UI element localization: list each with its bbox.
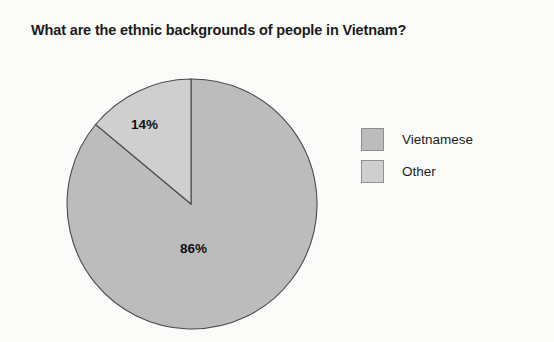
slice-label-other: 14% bbox=[131, 117, 158, 132]
legend-label-vietnamese: Vietnamese bbox=[402, 132, 473, 147]
legend-swatch-vietnamese bbox=[361, 128, 384, 151]
pie-chart-figure: What are the ethnic backgrounds of peopl… bbox=[0, 0, 554, 342]
legend-label-other: Other bbox=[402, 164, 436, 179]
slice-label-vietnamese: 86% bbox=[180, 241, 207, 256]
legend-item-vietnamese[interactable]: Vietnamese bbox=[361, 126, 531, 152]
legend-swatch-other bbox=[361, 160, 384, 183]
chart-legend: Vietnamese Other bbox=[361, 126, 531, 190]
legend-item-other[interactable]: Other bbox=[361, 158, 531, 184]
